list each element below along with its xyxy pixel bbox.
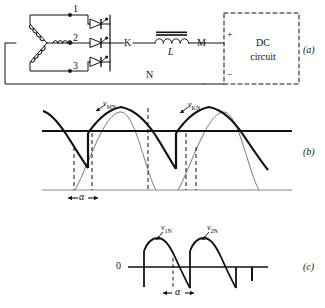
v1n-subscript: 1N — [165, 228, 172, 234]
waveform-c-label-v2n: v2N — [207, 224, 218, 234]
v2n-subscript: 2N — [211, 228, 218, 234]
panel-label-c: (c) — [303, 262, 314, 272]
panel-label-b: (b) — [303, 147, 315, 157]
waveform-c-label-v1n: v1N — [161, 224, 172, 234]
figure-root: 1 2 3 K L M N + − DC circuit — [0, 0, 325, 308]
waveform-c-curves — [144, 238, 252, 288]
waveform-c — [0, 0, 325, 308]
waveform-c-zero-label: 0 — [116, 261, 121, 271]
alpha-label-c: α — [175, 287, 180, 297]
panel-label-a: (a) — [303, 45, 315, 55]
